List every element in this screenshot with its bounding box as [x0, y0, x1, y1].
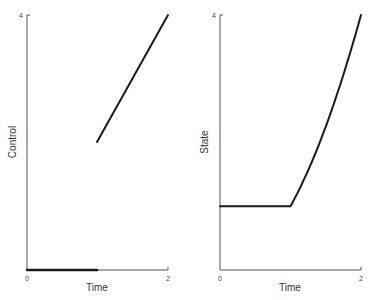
control-chart: 4 0 2 Time Control: [7, 12, 170, 293]
control-x-tick-label-0: 0: [25, 275, 29, 282]
figure: 4 0 2 Time Control 4 0 2 Time State: [0, 0, 372, 300]
state-x-tick-label-0: 0: [218, 275, 222, 282]
state-x-tick-label-2: 2: [359, 275, 363, 282]
state-x-axis-label: Time: [279, 282, 301, 293]
control-y-tick-label-4: 4: [19, 12, 23, 19]
state-y-tick-label-4: 4: [212, 12, 216, 19]
control-x-axis-label: Time: [86, 282, 108, 293]
control-y-axis-label: Control: [7, 126, 18, 158]
state-chart: 4 0 2 Time State: [199, 12, 363, 293]
state-line: [220, 15, 361, 206]
control-line-segment-ramp: [97, 15, 168, 142]
control-x-tick-label-2: 2: [166, 275, 170, 282]
state-y-axis-label: State: [199, 130, 210, 154]
